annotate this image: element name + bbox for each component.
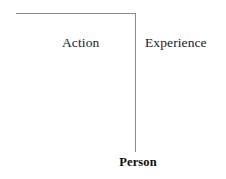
root-node-label-person: Person xyxy=(0,156,226,169)
horizontal-connector-line xyxy=(16,13,136,14)
vertical-connector-line xyxy=(135,13,136,152)
branch-label-action: Action xyxy=(62,36,99,50)
branch-label-experience: Experience xyxy=(145,36,207,50)
tree-diagram: Action Experience Person xyxy=(0,0,226,179)
